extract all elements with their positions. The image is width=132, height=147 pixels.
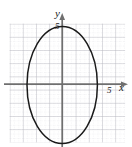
x-axis-tick-label-5: 5 [107,86,112,95]
x-axis-label: x [119,82,124,93]
plot-canvas [0,0,132,147]
y-axis-arrowhead [59,13,65,20]
y-axis-tick-label-5: 5 [55,22,60,31]
ellipse-graph-figure: y x 5 5 [0,0,132,147]
y-axis-label: y [55,8,60,19]
